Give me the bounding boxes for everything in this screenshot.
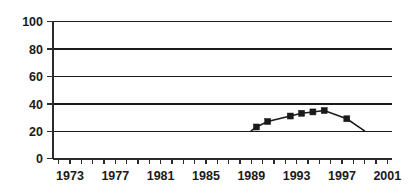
- data-series: [251, 108, 365, 132]
- chart-container: 100 80 60 40 20 0: [0, 0, 409, 196]
- data-point: [287, 113, 293, 119]
- y-axis-labels: 100 80 60 40 20 0: [22, 15, 43, 166]
- y-tick-label-40: 40: [29, 98, 43, 112]
- x-tick-label-1981: 1981: [147, 169, 175, 183]
- y-tick-label-0: 0: [36, 152, 43, 166]
- data-point: [299, 110, 305, 116]
- data-point: [344, 116, 350, 122]
- x-tick-label-1973: 1973: [56, 169, 84, 183]
- y-tick-label-20: 20: [29, 125, 43, 139]
- x-tick-label-2001: 2001: [373, 169, 401, 183]
- gridlines: [53, 22, 392, 132]
- x-tick-label-1977: 1977: [101, 169, 129, 183]
- data-point: [310, 109, 316, 115]
- x-tick-label-1993: 1993: [283, 169, 311, 183]
- series-markers: [253, 108, 349, 130]
- x-tick-label-1989: 1989: [237, 169, 265, 183]
- y-tick-label-100: 100: [22, 15, 43, 29]
- data-point: [253, 124, 259, 130]
- data-point: [321, 108, 327, 114]
- x-axis-labels: 1973 1977 1981 1985 1989 1993 1997 2001: [56, 169, 401, 183]
- x-tick-label-1985: 1985: [192, 169, 220, 183]
- line-chart: 100 80 60 40 20 0: [0, 0, 409, 196]
- x-tick-label-1997: 1997: [328, 169, 356, 183]
- data-point: [265, 119, 271, 125]
- y-tick-label-80: 80: [29, 43, 43, 57]
- y-tick-label-60: 60: [29, 70, 43, 84]
